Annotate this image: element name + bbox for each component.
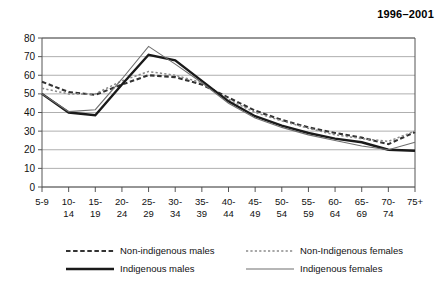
x-axis-tick-label-top: 30- [160, 196, 190, 208]
x-axis-tick-label-top: 40- [214, 196, 244, 208]
x-axis-tick-label-bottom: 19 [80, 208, 110, 220]
y-axis-tick-label: 0 [29, 182, 35, 193]
y-axis-tick-label: 60 [24, 70, 36, 81]
legend-line-swatch [66, 264, 114, 274]
legend-line-swatch [246, 246, 294, 256]
legend-item-label: Indigenous males [120, 263, 194, 274]
x-axis-tick-label: 5-9 [27, 196, 57, 208]
x-axis-tick-label-bottom: 54 [267, 208, 297, 220]
x-axis-tick-label: 35-39 [187, 196, 217, 220]
x-axis-tick-label: 15-19 [80, 196, 110, 220]
x-axis-tick-label-top: 45- [240, 196, 270, 208]
x-axis-tick-label: 70-74 [373, 196, 403, 220]
y-axis-tick-label: 80 [24, 33, 36, 44]
x-axis-tick-label: 75+ [400, 196, 430, 208]
legend-line-swatch [246, 264, 294, 274]
x-axis-tick-label-top: 50- [267, 196, 297, 208]
x-axis-tick-label-top: 15- [80, 196, 110, 208]
legend-item-label: Non-indigenous males [120, 245, 215, 256]
legend-item[interactable]: Non-indigenous males [66, 245, 215, 256]
x-axis-tick-label: 65-69 [347, 196, 377, 220]
x-axis-tick-label-bottom: 39 [187, 208, 217, 220]
y-axis-tick-label: 50 [24, 88, 36, 99]
y-axis-tick-label: 20 [24, 144, 36, 155]
x-axis-tick-label-bottom: 64 [320, 208, 350, 220]
x-axis-tick-label-top: 65- [347, 196, 377, 208]
x-axis-tick-label-top: 55- [293, 196, 323, 208]
x-axis-tick-label-bottom: 29 [134, 208, 164, 220]
legend-item[interactable]: Indigenous females [246, 263, 382, 274]
x-axis-tick-label: 40-44 [214, 196, 244, 220]
x-axis-tick-label-top: 35- [187, 196, 217, 208]
legend-item[interactable]: Non-Indigenous females [246, 245, 403, 256]
chart-figure: 1996–2001 01020304050607080 5-910-1415-1… [0, 0, 446, 304]
x-axis-tick-label-top: 70- [373, 196, 403, 208]
x-axis-tick-label-bottom: 59 [293, 208, 323, 220]
chart-legend: Non-indigenous malesNon-Indigenous femal… [0, 243, 446, 287]
x-axis-tick-label-bottom: 34 [160, 208, 190, 220]
series-line-3 [42, 46, 415, 149]
x-axis-labels: 5-910-1415-1920-2425-2930-3435-3940-4445… [0, 196, 446, 236]
x-axis-tick-label-bottom: 69 [347, 208, 377, 220]
x-axis-tick-label: 25-29 [134, 196, 164, 220]
x-axis-tick-label: 60-64 [320, 196, 350, 220]
x-axis-tick-label-top: 5-9 [27, 196, 57, 208]
x-axis-tick-label: 30-34 [160, 196, 190, 220]
x-axis-tick-label: 45-49 [240, 196, 270, 220]
y-axis-tick-label: 40 [24, 107, 36, 118]
x-axis-tick-label-bottom: 49 [240, 208, 270, 220]
x-axis-tick-label-top: 10- [54, 196, 84, 208]
legend-item-label: Non-Indigenous females [300, 245, 403, 256]
x-axis-tick-label-top: 60- [320, 196, 350, 208]
x-axis-tick-label-bottom: 24 [107, 208, 137, 220]
plot-svg: 01020304050607080 [0, 26, 446, 201]
x-axis-tick-label-bottom: 74 [373, 208, 403, 220]
y-axis-tick-label: 30 [24, 126, 36, 137]
x-axis-tick-label-bottom: 44 [214, 208, 244, 220]
plot-area: 01020304050607080 [0, 26, 446, 201]
x-axis-tick-label: 50-54 [267, 196, 297, 220]
x-axis-tick-label-bottom: 14 [54, 208, 84, 220]
x-axis-tick-label-top: 75+ [400, 196, 430, 208]
y-axis-tick-label: 10 [24, 163, 36, 174]
legend-item-label: Indigenous females [300, 263, 382, 274]
legend-line-swatch [66, 246, 114, 256]
chart-title: 1996–2001 [377, 8, 434, 20]
x-axis-tick-label-top: 25- [134, 196, 164, 208]
y-axis-tick-label: 70 [24, 51, 36, 62]
x-axis-tick-label: 55-59 [293, 196, 323, 220]
legend-item[interactable]: Indigenous males [66, 263, 194, 274]
x-axis-tick-label: 20-24 [107, 196, 137, 220]
x-axis-tick-label-top: 20- [107, 196, 137, 208]
series-line-0 [42, 75, 415, 144]
x-axis-tick-label: 10-14 [54, 196, 84, 220]
